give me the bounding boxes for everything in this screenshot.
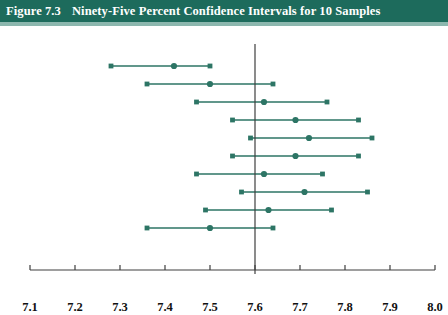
- interval-endpoint-upper: [356, 154, 361, 159]
- interval-endpoint-lower: [230, 154, 235, 159]
- interval-endpoint-upper: [325, 100, 330, 105]
- interval-endpoint-lower: [203, 208, 208, 213]
- intervals-layer: [109, 63, 375, 231]
- interval-endpoint-upper: [271, 82, 276, 87]
- interval-point-estimate: [292, 153, 298, 159]
- interval-endpoint-upper: [208, 64, 213, 69]
- x-axis-tick-label: 7.4: [157, 300, 173, 315]
- axis-layer: [30, 265, 435, 270]
- x-axis-tick-label: 7.1: [22, 300, 38, 315]
- x-axis-tick-label: 7.8: [337, 300, 353, 315]
- interval-endpoint-upper: [329, 208, 334, 213]
- x-axis-tick-label: 7.2: [67, 300, 83, 315]
- interval-endpoint-lower: [194, 100, 199, 105]
- interval-endpoint-upper: [320, 172, 325, 177]
- interval-endpoint-lower: [145, 82, 150, 87]
- confidence-interval-plot: 7.17.27.37.47.57.67.77.87.98.0 μY: [0, 26, 448, 315]
- interval-point-estimate: [306, 135, 312, 141]
- x-axis-tick-label: 7.7: [292, 300, 308, 315]
- x-axis-tick-label: 7.6: [247, 300, 263, 315]
- figure-number: Figure 7.3: [6, 4, 61, 19]
- figure-header: Figure 7.3 Ninety-Five Percent Confidenc…: [0, 0, 448, 22]
- interval-point-estimate: [292, 117, 298, 123]
- confidence-interval-row: [203, 207, 334, 213]
- x-axis-tick-label: 8.0: [427, 300, 443, 315]
- interval-endpoint-lower: [145, 226, 150, 231]
- confidence-interval-row: [145, 81, 276, 87]
- confidence-interval-row: [109, 63, 213, 69]
- x-axis-tick-label: 7.5: [202, 300, 218, 315]
- interval-endpoint-lower: [194, 172, 199, 177]
- confidence-interval-row: [230, 153, 361, 159]
- x-axis-tick-label: 7.3: [112, 300, 128, 315]
- confidence-interval-row: [230, 117, 361, 123]
- interval-endpoint-lower: [109, 64, 114, 69]
- x-axis-tick-label: 7.9: [382, 300, 398, 315]
- interval-endpoint-lower: [239, 190, 244, 195]
- figure-title: Ninety-Five Percent Confidence Intervals…: [72, 4, 380, 19]
- interval-point-estimate: [207, 225, 213, 231]
- confidence-interval-row: [239, 189, 370, 195]
- interval-point-estimate: [261, 171, 267, 177]
- interval-endpoint-upper: [365, 190, 370, 195]
- confidence-interval-row: [145, 225, 276, 231]
- confidence-interval-row: [248, 135, 374, 141]
- plot-canvas: [0, 26, 448, 315]
- interval-point-estimate: [207, 81, 213, 87]
- confidence-interval-row: [194, 171, 325, 177]
- interval-point-estimate: [261, 99, 267, 105]
- interval-endpoint-lower: [230, 118, 235, 123]
- confidence-interval-row: [194, 99, 329, 105]
- interval-endpoint-lower: [248, 136, 253, 141]
- interval-point-estimate: [265, 207, 271, 213]
- interval-endpoint-upper: [271, 226, 276, 231]
- interval-point-estimate: [171, 63, 177, 69]
- interval-point-estimate: [301, 189, 307, 195]
- interval-endpoint-upper: [370, 136, 375, 141]
- interval-endpoint-upper: [356, 118, 361, 123]
